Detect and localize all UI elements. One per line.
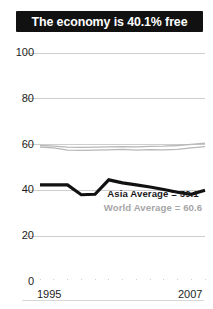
y-axis-tick-label: 0 <box>0 276 34 287</box>
page-title: The economy is 40.1% free <box>32 15 188 29</box>
legend-label-world-average: World Average = 60.6 <box>104 202 202 213</box>
x-axis-tick-label: 2007 <box>178 289 202 300</box>
series-line-world-average <box>40 143 205 147</box>
chart-title-banner: The economy is 40.1% free <box>16 11 203 32</box>
y-axis-tick-label: 100 <box>0 47 34 58</box>
legend-item-world-average: World Average = 60.6 <box>96 200 210 214</box>
line-chart-svg <box>0 40 213 280</box>
y-axis-tick-label: 20 <box>0 230 34 241</box>
x-axis-tick-label: 1995 <box>37 289 61 300</box>
y-axis-tick-label: 60 <box>0 139 34 150</box>
x-axis-ticks-group <box>40 279 205 281</box>
economic-freedom-chart-figure: The economy is 40.1% free 100806040200 1… <box>0 0 213 309</box>
legend-item-asia-average: Asia Average = 59.1 <box>96 186 210 200</box>
legend-label-asia-average: Asia Average = 59.1 <box>107 188 199 199</box>
y-axis-tick-label: 80 <box>0 93 34 104</box>
bottom-divider <box>22 300 204 301</box>
gridlines-group <box>23 53 205 280</box>
chart-legend: Asia Average = 59.1 World Average = 60.6 <box>96 186 210 214</box>
y-axis-tick-label: 40 <box>0 184 34 195</box>
plot-area: 100806040200 19952007 <box>0 40 213 280</box>
